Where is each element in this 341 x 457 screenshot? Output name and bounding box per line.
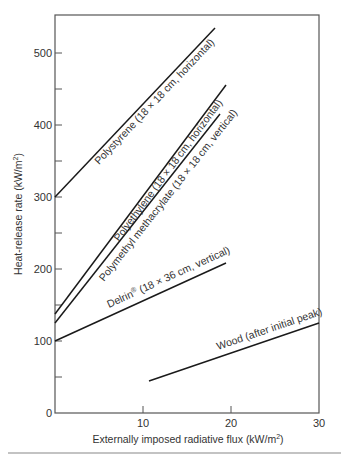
y-tick-400: 400 (34, 119, 52, 131)
x-tick-labels: 10 20 30 (137, 417, 325, 429)
chart: 0 100 200 300 400 500 10 20 30 Externall… (0, 0, 341, 457)
line-delrin (55, 263, 226, 341)
y-tick-300: 300 (34, 191, 52, 203)
y-tick-500: 500 (34, 47, 52, 59)
line-wood (149, 323, 319, 381)
x-ticks (143, 406, 231, 413)
x-tick-30: 30 (313, 417, 325, 429)
y-tick-labels: 0 100 200 300 400 500 (34, 47, 52, 419)
y-tick-100: 100 (34, 335, 52, 347)
x-axis-label: Externally imposed radiative flux (kW/m2… (92, 433, 283, 445)
x-tick-20: 20 (225, 417, 237, 429)
label-wood: Wood (after initial peak) (215, 305, 324, 352)
y-axis-label: Heat-release rate (kW/m2) (12, 153, 24, 275)
y-tick-200: 200 (34, 263, 52, 275)
y-minor-ticks (55, 89, 62, 377)
x-tick-10: 10 (137, 417, 149, 429)
y-major-ticks (55, 53, 62, 341)
y-tick-0: 0 (46, 407, 52, 419)
